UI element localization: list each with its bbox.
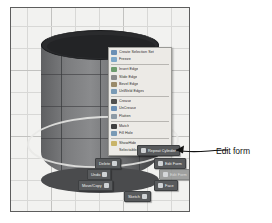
menu-separator [111, 96, 169, 97]
menu-item-label: UnCrease [119, 105, 136, 112]
context-menu-group: Create Selection Set Freeze [109, 49, 171, 63]
crease-icon [111, 99, 117, 104]
menu-item-slide-edge[interactable]: Slide Edge [109, 74, 171, 81]
menu-item-crease[interactable]: Crease [109, 98, 171, 105]
marking-button-move-copy[interactable]: Move/Copy [78, 180, 113, 191]
repeat-icon [141, 148, 146, 153]
menu-item-flatten[interactable]: Flatten [109, 113, 171, 120]
edit-form-icon [158, 161, 163, 166]
delete-icon [112, 161, 117, 166]
face-icon [158, 183, 163, 188]
bevel-edge-icon [111, 82, 117, 87]
menu-item-label: Crease [119, 98, 131, 105]
menu-item-bevel-edge[interactable]: Bevel Edge [109, 81, 171, 88]
menu-item-label: Fill Hole [119, 130, 133, 137]
uncrease-icon [111, 106, 117, 111]
sketch-icon [142, 194, 147, 199]
flatten-icon [111, 114, 117, 119]
grid-line-horizontal [11, 26, 189, 27]
marking-button-label: Face [165, 181, 174, 190]
marking-button-label: Sketch [128, 192, 140, 201]
undo-icon [102, 172, 107, 177]
menu-item-uncrease[interactable]: UnCrease [109, 105, 171, 112]
marking-button-label: Undo [91, 170, 100, 179]
menu-separator [111, 64, 169, 65]
menu-item-label: Create Selection Set [119, 49, 154, 56]
menu-item-create-selection-set[interactable]: Create Selection Set [109, 49, 171, 56]
selectable-icon [111, 148, 117, 153]
menu-item-label: Freeze [119, 56, 131, 63]
selection-set-icon [111, 50, 117, 55]
menu-item-label: UnWeld Edges [119, 88, 144, 95]
marking-button-face[interactable]: Face [154, 180, 178, 191]
menu-item-label: Insert Edge [119, 66, 138, 73]
marking-button-label: Edit Form [165, 159, 182, 168]
grid-line-horizontal [11, 200, 189, 201]
move-copy-icon [104, 183, 109, 188]
edit-form-icon [163, 172, 168, 177]
menu-item-freeze[interactable]: Freeze [109, 56, 171, 63]
marking-button-delete[interactable]: Delete [95, 158, 121, 169]
marking-button-sketch[interactable]: Sketch [124, 191, 151, 202]
marking-button-label: Move/Copy [82, 181, 102, 190]
show-hide-icon [111, 141, 117, 146]
context-menu-group: Insert Edge Slide Edge Bevel Edge UnWeld… [109, 66, 171, 95]
freeze-icon [111, 57, 117, 62]
marking-button-edit-form-disabled: Edit Form [159, 169, 190, 180]
insert-edge-icon [111, 67, 117, 72]
menu-item-unweld-edges[interactable]: UnWeld Edges [109, 88, 171, 95]
context-menu-group: Crease UnCrease Flatten [109, 98, 171, 120]
marking-button-label: Edit Form [170, 170, 187, 179]
menu-item-label: Flatten [119, 113, 131, 120]
annotation-label: Edit form [216, 146, 250, 157]
3d-modeling-viewport[interactable]: Create Selection Set Freeze Insert Edge … [10, 7, 190, 212]
menu-item-label: Match [119, 123, 129, 130]
match-icon [111, 124, 117, 129]
menu-separator [111, 121, 169, 122]
unweld-edges-icon [111, 89, 117, 94]
slide-edge-icon [111, 75, 117, 80]
fill-hole-icon [111, 131, 117, 136]
menu-item-label: Slide Edge [119, 74, 137, 81]
marking-button-label: Delete [99, 159, 110, 168]
menu-item-insert-edge[interactable]: Insert Edge [109, 66, 171, 73]
marking-button-undo[interactable]: Undo [87, 169, 111, 180]
menu-item-label: ShowHide [119, 140, 136, 147]
menu-item-label: Bevel Edge [119, 81, 138, 88]
